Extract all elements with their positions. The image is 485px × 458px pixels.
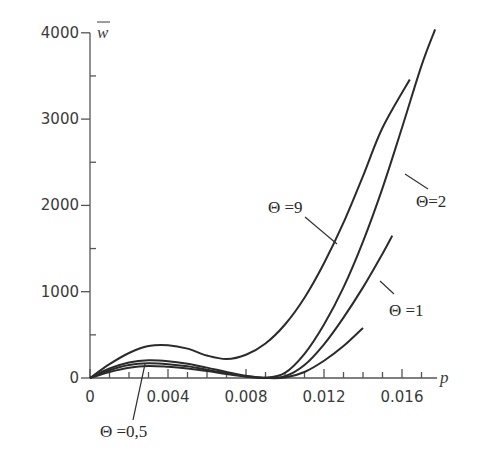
leader-theta2 <box>405 174 428 189</box>
axes: 0100020003000400000.0040.0080.0120.016 <box>41 24 437 406</box>
y-tick-label: 0 <box>69 369 79 387</box>
label-theta05: Θ =0,5 <box>100 422 147 441</box>
curves <box>90 29 435 378</box>
label-theta1: Θ =1 <box>389 301 424 320</box>
x-tick-label: 0.016 <box>381 388 424 406</box>
x-tick-label: 0.012 <box>303 388 346 406</box>
x-axis-label: p <box>439 368 449 387</box>
x-tick-label: 0.004 <box>147 388 190 406</box>
y-tick-label: 1000 <box>41 283 79 301</box>
y-axis-label: w <box>97 23 109 42</box>
series-curve-theta-2 <box>90 29 435 378</box>
label-theta9: Θ =9 <box>268 198 303 217</box>
leader-theta9 <box>305 217 337 244</box>
leader-theta05 <box>133 364 145 420</box>
label-theta2: Θ=2 <box>416 192 446 211</box>
leader-theta1 <box>380 281 394 294</box>
x-tick-label: 0 <box>85 388 95 406</box>
y-tick-label: 3000 <box>41 110 79 128</box>
x-tick-label: 0.008 <box>225 388 268 406</box>
y-tick-label: 4000 <box>41 24 79 42</box>
y-tick-label: 2000 <box>41 196 79 214</box>
chart: 0100020003000400000.0040.0080.0120.016 w… <box>0 0 485 458</box>
series-curve-theta-9 <box>90 79 410 378</box>
